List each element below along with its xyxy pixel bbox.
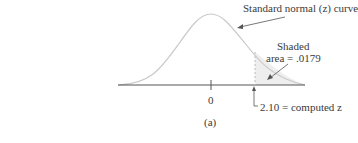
shaded-label-line1: Shaded — [277, 40, 309, 52]
arrow-head-icon — [237, 24, 243, 29]
figure-caption: (a) — [204, 116, 216, 128]
arrow-head-icon — [252, 86, 256, 91]
computed-z-label: 2.10 = computed z — [260, 101, 342, 113]
curve-label: Standard normal (z) curve — [243, 2, 358, 14]
curve-label-arrow — [240, 17, 285, 27]
shaded-label-line2: area = .0179 — [266, 52, 321, 64]
zero-tick-label: 0 — [208, 94, 214, 106]
